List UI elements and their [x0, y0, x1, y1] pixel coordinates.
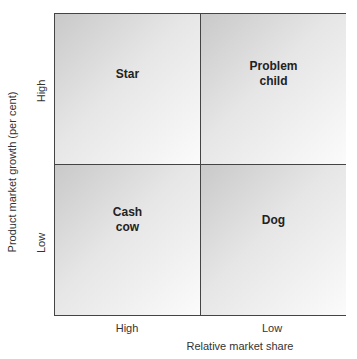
quadrant-label: Star — [116, 67, 139, 82]
quadrant-problem-child: Problem child — [201, 14, 346, 165]
quadrant-label: Problem child — [249, 59, 297, 89]
y-axis-label: Product market growth (per cent) — [6, 52, 18, 292]
quadrant-cash-cow: Cash cow — [55, 165, 201, 315]
quadrant-star: Star — [55, 14, 201, 165]
x-axis-label: Relative market share — [140, 340, 340, 352]
quadrant-label: Dog — [262, 213, 285, 228]
x-tick-high: High — [87, 322, 167, 334]
x-tick-low: Low — [232, 322, 312, 334]
quadrant-label: Cash cow — [113, 205, 142, 235]
matrix-grid: Star Problem child Cash cow Dog — [54, 13, 346, 316]
y-tick-high: High — [35, 61, 47, 121]
y-tick-low: Low — [35, 213, 47, 273]
quadrant-dog: Dog — [201, 165, 346, 315]
